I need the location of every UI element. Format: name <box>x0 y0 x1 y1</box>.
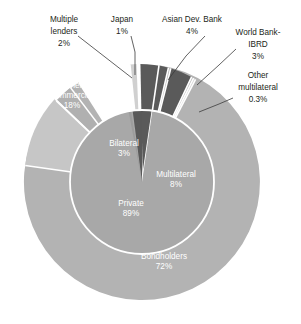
leader-world-bank-ibrd <box>197 49 236 85</box>
ext-label-multiple-lenders: Multiple lenders 2% <box>50 15 79 48</box>
svg-text:Asian Dev. Bank: Asian Dev. Bank <box>162 15 223 24</box>
svg-text:0.3%: 0.3% <box>249 95 268 104</box>
ext-label-world-bank-ibrd: World Bank- IBRD 3% <box>236 28 281 61</box>
svg-text:18%: 18% <box>64 101 80 110</box>
svg-text:Bilateral: Bilateral <box>109 139 139 148</box>
svg-text:2%: 2% <box>58 39 70 48</box>
pie-chart-svg: Other commercial 18% Bilateral 3% Multil… <box>0 0 301 324</box>
svg-text:72%: 72% <box>156 262 172 271</box>
svg-text:multilateral: multilateral <box>238 83 278 92</box>
svg-text:8%: 8% <box>170 180 182 189</box>
ext-label-other-multilateral: Other multilateral 0.3% <box>238 71 278 104</box>
ext-label-japan: Japan 1% <box>111 15 134 36</box>
svg-text:4%: 4% <box>186 27 198 36</box>
svg-text:Other: Other <box>248 71 269 80</box>
svg-text:Private: Private <box>118 199 144 208</box>
pie-chart-container: Other commercial 18% Bilateral 3% Multil… <box>0 0 301 324</box>
inner-ring-slices <box>70 110 214 254</box>
svg-text:3%: 3% <box>118 149 130 158</box>
svg-text:IBRD: IBRD <box>248 40 268 49</box>
svg-text:Other: Other <box>62 81 83 90</box>
svg-text:Japan: Japan <box>111 15 134 24</box>
svg-text:World Bank-: World Bank- <box>236 28 281 37</box>
svg-text:Bondholders: Bondholders <box>141 252 187 261</box>
svg-text:1%: 1% <box>116 27 128 36</box>
ext-label-asian-dev-bank: Asian Dev. Bank 4% <box>162 15 223 36</box>
svg-text:Multiple: Multiple <box>50 15 79 24</box>
svg-text:Multilateral: Multilateral <box>156 170 196 179</box>
svg-text:89%: 89% <box>123 209 139 218</box>
svg-text:lenders: lenders <box>51 27 78 36</box>
svg-text:3%: 3% <box>252 52 264 61</box>
svg-text:commercial: commercial <box>51 91 93 100</box>
leader-multiple-lenders <box>78 36 132 78</box>
